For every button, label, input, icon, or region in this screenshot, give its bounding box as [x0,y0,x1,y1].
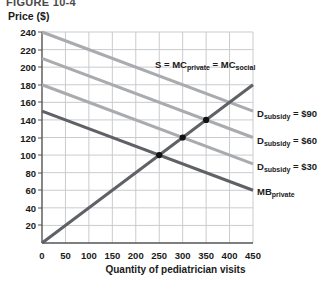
y-tick-mark [38,172,42,173]
series-label-supply: S = MCprivate = MCsocial [155,59,255,72]
y-tick-mark [38,67,42,68]
y-tick-mark [38,207,42,208]
y-tick-label: 80 [25,167,36,178]
series-label-d-subsidy-60: Dsubsidy = $60 [257,134,317,147]
y-tick-mark [38,49,42,50]
y-tick-mark [38,190,42,191]
x-tick-label: 50 [60,250,71,261]
y-tick-label: 120 [20,132,36,143]
x-tick-label: 100 [81,250,97,261]
y-tick-mark [38,102,42,103]
figure-caption: FIGURE 10-4 [6,0,76,8]
y-tick-mark [38,137,42,138]
y-tick-label: 220 [20,44,36,55]
plot-area: 2040608010012014016018020022024005010015… [42,32,253,243]
y-tick-label: 240 [20,27,36,38]
y-tick-mark [38,155,42,156]
equilibrium-point [203,117,209,123]
x-tick-label: 300 [175,250,191,261]
y-tick-mark [38,84,42,85]
x-tick-label: 200 [128,250,144,261]
x-tick-label: 0 [39,250,44,261]
equilibrium-point [180,134,186,140]
x-tick-label: 450 [245,250,261,261]
y-tick-label: 20 [25,220,36,231]
series-label-d-subsidy-30: Dsubsidy = $30 [257,160,317,173]
x-tick-label: 250 [151,250,167,261]
x-tick-label: 150 [104,250,120,261]
x-tick-label: 350 [198,250,214,261]
y-tick-label: 180 [20,79,36,90]
series-label-mb-private: MBprivate [257,186,295,199]
y-axis-title: Price ($) [8,10,49,22]
y-tick-mark [38,32,42,33]
y-tick-mark [38,119,42,120]
y-tick-label: 160 [20,97,36,108]
figure-root: FIGURE 10-4 Price ($) 204060801001201401… [0,0,321,290]
x-tick-label: 400 [222,250,238,261]
series-line [42,85,253,243]
x-axis-title: Quantity of pediatrician visits [0,264,321,275]
y-tick-label: 60 [25,185,36,196]
y-tick-label: 40 [25,202,36,213]
y-tick-label: 200 [20,62,36,73]
equilibrium-point [156,152,162,158]
series-label-d-subsidy-90: Dsubsidy = $90 [257,108,317,121]
y-tick-mark [38,225,42,226]
y-tick-label: 100 [20,150,36,161]
y-tick-label: 140 [20,114,36,125]
